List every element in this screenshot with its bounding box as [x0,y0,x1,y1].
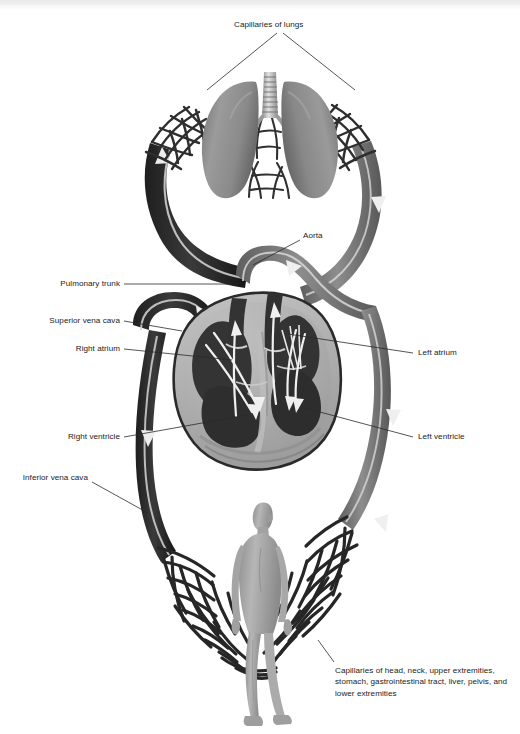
circulation-illustration [0,0,520,734]
human-body-figure [232,503,292,726]
label-inferior-vena-cava: Inferior vena cava [0,472,88,483]
label-systemic-capillaries: Capillaries of head, neck, upper extremi… [335,665,515,699]
heart-cross-section [174,292,341,470]
inferior-vena-cava [136,330,176,562]
figure-canvas: Capillaries of lungs Aorta Pulmonary tru… [0,0,520,734]
label-superior-vena-cava: Superior vena cava [0,315,120,326]
label-aorta: Aorta [303,230,323,241]
label-right-atrium: Right atrium [0,343,120,354]
label-left-ventricle: Left ventricle [418,431,465,442]
label-capillaries-of-lungs: Capillaries of lungs [234,19,303,30]
label-left-atrium: Left atrium [418,347,457,358]
label-pulmonary-trunk: Pulmonary trunk [0,278,120,289]
label-right-ventricle: Right ventricle [0,431,120,442]
